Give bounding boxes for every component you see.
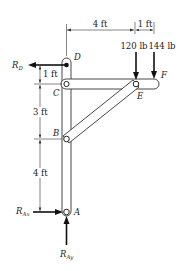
load-label-144lb: 144 lb <box>148 41 176 51</box>
pin-b <box>64 136 70 142</box>
reaction-label-ray: RAy <box>59 249 74 261</box>
dim-label-1ft-horizontal: 1 ft <box>138 19 153 29</box>
reaction-arrow-rd <box>28 62 66 68</box>
pin-c <box>64 81 69 86</box>
load-arrow-120lb <box>133 52 139 80</box>
load-label-120lb: 120 lb <box>120 41 148 51</box>
point-label-a: A <box>73 207 80 217</box>
pin-a <box>64 209 70 215</box>
point-label-c: C <box>53 88 60 98</box>
point-label-f: F <box>160 70 168 80</box>
point-label-b: B <box>52 128 59 138</box>
point-label-d: D <box>73 52 81 62</box>
reaction-arrow-ray <box>64 216 70 245</box>
load-arrow-144lb <box>151 52 157 79</box>
dim-label-4ft-horizontal: 4 ft <box>93 19 108 29</box>
horizontal-bar-member <box>61 79 159 89</box>
frame-diagram: 4 ft 1 ft 120 lb 144 lb D C E F B A RD 1… <box>0 0 179 271</box>
reaction-arrow-rax <box>33 209 63 215</box>
dim-label-4ft-vertical: 4 ft <box>33 168 48 178</box>
reaction-label-rd: RD <box>11 60 23 71</box>
dim-label-1ft-vertical: 1 ft <box>43 69 58 79</box>
reaction-label-rax: RAx <box>15 206 30 217</box>
point-label-e: E <box>136 91 144 101</box>
dim-label-3ft-vertical: 3 ft <box>33 107 48 117</box>
pin-e <box>133 81 139 87</box>
